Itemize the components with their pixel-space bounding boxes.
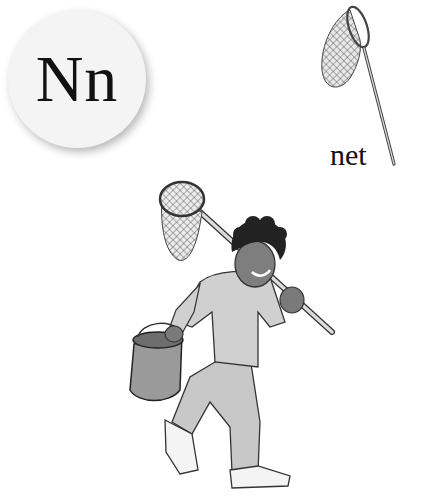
boy-illustration — [120, 172, 350, 501]
word-label: net — [330, 138, 367, 172]
letter-disc: Nn — [8, 10, 146, 148]
letter-heading: Nn — [8, 10, 146, 148]
